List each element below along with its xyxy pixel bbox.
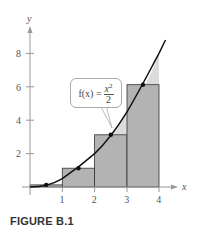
- y-tick-label-8: 8: [16, 48, 21, 59]
- x-tick-label-2: 2: [92, 194, 97, 205]
- rectangle-3: [95, 135, 127, 187]
- rectangle-4: [127, 85, 159, 187]
- x-axis-label: x: [181, 181, 187, 192]
- midpoint-1: [44, 183, 48, 187]
- y-tick-label-6: 6: [16, 82, 21, 93]
- figure-plot: 1 2 3 4 2 4 6 8 x y: [0, 0, 199, 233]
- midpoint-3: [109, 133, 113, 137]
- x-tick-label-4: 4: [156, 194, 161, 205]
- y-tick-label-4: 4: [16, 115, 21, 126]
- x-tick-label-3: 3: [124, 194, 129, 205]
- x-axis-arrow-icon: [171, 185, 178, 190]
- y-axis-label: y: [26, 13, 32, 24]
- x-tick-label-1: 1: [60, 194, 65, 205]
- rectangle-2: [62, 168, 94, 187]
- y-axis-arrow-icon: [28, 26, 33, 33]
- function-label-box: f(x) = x2 2: [70, 78, 122, 108]
- function-label-denominator: 2: [106, 95, 111, 105]
- y-tick-label-2: 2: [16, 148, 21, 159]
- function-label-numerator: x2: [104, 81, 114, 95]
- midpoint-2: [76, 166, 80, 170]
- function-label-fraction: x2 2: [104, 81, 114, 105]
- function-label-lhs: f(x) =: [78, 88, 101, 99]
- figure-caption: FIGURE B.1: [10, 215, 74, 227]
- x-ticks: [62, 187, 159, 192]
- midpoint-4: [141, 83, 145, 87]
- callout-pointer: [100, 105, 112, 128]
